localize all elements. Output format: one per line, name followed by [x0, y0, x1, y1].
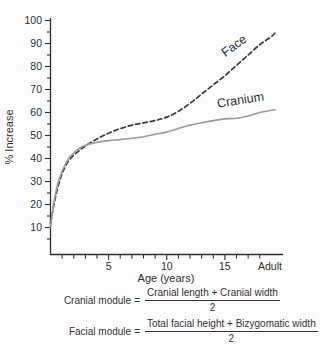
y-tick-label: 90: [30, 37, 42, 49]
formula-label: Facial module: [69, 326, 131, 337]
y-tick-label: 50: [30, 129, 42, 141]
y-axis-title: % Increase: [3, 109, 15, 164]
x-tick-label: 15: [219, 260, 231, 272]
y-tick-label: 80: [30, 60, 42, 72]
y-tick-label: 30: [30, 175, 42, 187]
cranial-module-formula: Cranial module= Cranial length + Cranial…: [0, 287, 322, 314]
equals-sign: =: [134, 295, 140, 306]
face-curve-label: Face: [219, 32, 250, 60]
y-tick-label: 70: [30, 83, 42, 95]
axes: [51, 18, 284, 255]
formula-label: Cranial module: [64, 295, 131, 306]
fraction: Cranial length + Cranial width 2: [145, 287, 280, 314]
formula-lhs: Cranial module=: [0, 295, 140, 306]
fraction: Total facial height + Bizygomatic width …: [145, 318, 318, 345]
formula-numerator: Cranial length + Cranial width: [145, 287, 280, 301]
formula-numerator: Total facial height + Bizygomatic width: [145, 318, 318, 332]
formula-denominator: 2: [210, 301, 216, 314]
y-tick-label: 40: [30, 152, 42, 164]
growth-chart-svg: 10203040506070809010051015AdultAge (year…: [0, 0, 322, 286]
cranium-curve-label: Cranium: [216, 89, 265, 110]
x-axis-title: Age (years): [138, 272, 195, 284]
formulas-block: Cranial module= Cranial length + Cranial…: [0, 287, 322, 345]
face-curve: [51, 33, 275, 223]
x-tick-label: 10: [161, 260, 173, 272]
formula-lhs: Facial module=: [0, 326, 140, 337]
cranium-curve: [51, 110, 275, 228]
y-tick-label: 100: [24, 14, 42, 26]
x-end-label: Adult: [258, 260, 282, 272]
y-tick-label: 10: [30, 221, 42, 233]
formula-denominator: 2: [229, 332, 235, 345]
figure: 10203040506070809010051015AdultAge (year…: [0, 0, 322, 348]
x-tick-label: 5: [106, 260, 112, 272]
y-tick-label: 60: [30, 106, 42, 118]
facial-module-formula: Facial module= Total facial height + Biz…: [0, 318, 322, 345]
growth-chart: 10203040506070809010051015AdultAge (year…: [0, 0, 322, 286]
y-tick-label: 20: [30, 198, 42, 210]
equals-sign: =: [134, 326, 140, 337]
